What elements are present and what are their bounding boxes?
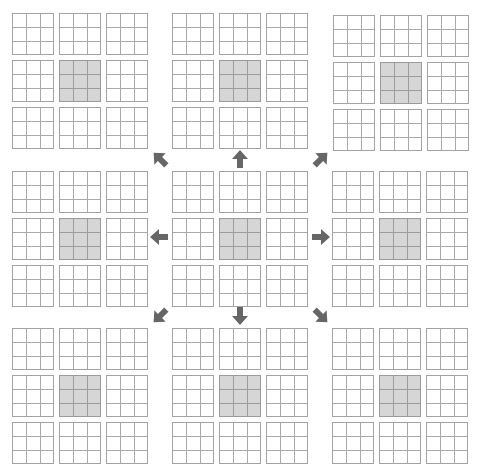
grid-line	[87, 172, 88, 212]
grid	[219, 422, 261, 464]
grid-line	[60, 436, 100, 437]
grid-line	[267, 232, 307, 233]
grid	[12, 107, 54, 149]
grid-line	[408, 63, 409, 103]
grid-line	[380, 356, 420, 357]
grid	[12, 265, 54, 307]
grid-line	[107, 121, 147, 122]
grid-line	[294, 329, 295, 369]
grid-line	[267, 342, 307, 343]
grid-line	[427, 199, 467, 200]
grid-line	[428, 123, 468, 124]
grid	[266, 60, 308, 102]
grid-line	[334, 43, 374, 44]
grid-line	[346, 376, 347, 416]
grid-line	[26, 14, 27, 54]
grid-line	[407, 376, 408, 416]
grid-line	[200, 219, 201, 259]
grid-line	[60, 135, 100, 136]
grid-line	[440, 219, 441, 259]
grid-line	[60, 293, 100, 294]
grid-line	[380, 185, 420, 186]
grid-line	[173, 74, 213, 75]
grid-line	[380, 403, 420, 404]
grid	[219, 328, 261, 370]
grid-line	[134, 266, 135, 306]
grid-line	[407, 329, 408, 369]
grid-line	[173, 41, 213, 42]
grid-line	[380, 389, 420, 390]
grid-line	[60, 199, 100, 200]
grid-line	[333, 185, 373, 186]
grid-line	[333, 246, 373, 247]
grid-line	[134, 329, 135, 369]
grid	[426, 375, 468, 417]
grid-line	[333, 232, 373, 233]
grid-line	[408, 16, 409, 56]
grid-line	[334, 76, 374, 77]
grid-line	[247, 14, 248, 54]
grid-line	[408, 110, 409, 150]
grid	[266, 107, 308, 149]
shaded-grid	[59, 218, 101, 260]
grid-line	[280, 266, 281, 306]
grid-line	[173, 27, 213, 28]
grid-line	[280, 423, 281, 463]
grid	[332, 328, 374, 370]
grid-line	[60, 246, 100, 247]
grid-line	[280, 108, 281, 148]
grid-line	[280, 219, 281, 259]
grid-line	[294, 172, 295, 212]
grid-line	[333, 199, 373, 200]
grid-line	[380, 199, 420, 200]
grid-line	[294, 376, 295, 416]
grid-line	[87, 266, 88, 306]
grid-line	[233, 329, 234, 369]
grid-line	[173, 88, 213, 89]
grid	[266, 375, 308, 417]
grid-line	[294, 108, 295, 148]
grid-line	[233, 14, 234, 54]
grid-line	[186, 61, 187, 101]
grid-line	[428, 29, 468, 30]
grid-line	[186, 108, 187, 148]
grid-line	[381, 43, 421, 44]
grid	[219, 171, 261, 213]
grid-line	[454, 423, 455, 463]
grid	[172, 422, 214, 464]
grid-line	[13, 436, 53, 437]
grid-line	[87, 108, 88, 148]
grid	[379, 422, 421, 464]
grid-line	[73, 266, 74, 306]
grid-line	[393, 172, 394, 212]
grid-line	[427, 436, 467, 437]
grid-line	[220, 436, 260, 437]
grid	[59, 422, 101, 464]
grid-line	[393, 376, 394, 416]
block-top-left	[12, 13, 149, 150]
grid-line	[333, 389, 373, 390]
grid-line	[455, 63, 456, 103]
grid-line	[346, 172, 347, 212]
grid-line	[428, 137, 468, 138]
grid-line	[73, 219, 74, 259]
grid-line	[134, 61, 135, 101]
grid-line	[267, 436, 307, 437]
grid-line	[361, 63, 362, 103]
grid-line	[220, 121, 260, 122]
shaded-grid	[380, 62, 422, 104]
grid-line	[173, 342, 213, 343]
grid-line	[73, 423, 74, 463]
grid-line	[267, 41, 307, 42]
grid-line	[186, 172, 187, 212]
grid-line	[294, 423, 295, 463]
grid	[333, 15, 375, 57]
grid-line	[380, 232, 420, 233]
grid-line	[427, 389, 467, 390]
grid-line	[87, 423, 88, 463]
grid-line	[13, 279, 53, 280]
shaded-grid	[219, 218, 261, 260]
grid-line	[267, 450, 307, 451]
grid-line	[40, 219, 41, 259]
grid	[333, 62, 375, 104]
